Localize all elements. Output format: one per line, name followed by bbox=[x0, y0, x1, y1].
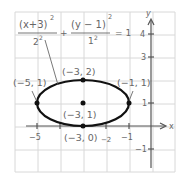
point-label: (−1, 1) bbox=[117, 77, 151, 88]
point-label: (−3, 1) bbox=[63, 109, 97, 120]
point-label: (−3, 0) bbox=[64, 132, 98, 143]
svg-text:2: 2 bbox=[108, 13, 112, 21]
svg-text:1: 1 bbox=[88, 36, 94, 46]
point-center bbox=[81, 101, 86, 106]
svg-text:(y − 1): (y − 1) bbox=[71, 19, 106, 30]
point-vertex-right bbox=[127, 101, 132, 106]
svg-text:2: 2 bbox=[39, 34, 43, 41]
ellipse-graph: x y −5 −2 −1 4 3 1 −1 (−5, 1) (−3, 2) (−… bbox=[0, 0, 181, 185]
point-label: (−3, 2) bbox=[62, 66, 96, 77]
svg-text:= 1: = 1 bbox=[115, 28, 131, 38]
y-tick-label: 3 bbox=[141, 53, 146, 62]
x-axis-label: x bbox=[169, 122, 174, 131]
svg-text:2: 2 bbox=[50, 14, 54, 22]
equation: (x+3) 2 2 2 + (y − 1) 2 1 2 = 1 bbox=[18, 13, 131, 47]
point-label: (−5, 1) bbox=[13, 77, 47, 88]
svg-text:2: 2 bbox=[94, 34, 98, 41]
svg-text:+: + bbox=[60, 28, 68, 38]
x-tick-label: −2 bbox=[101, 136, 111, 144]
svg-text:2: 2 bbox=[33, 37, 39, 47]
y-tick-label: −1 bbox=[135, 145, 147, 154]
y-tick-label: 4 bbox=[140, 30, 145, 39]
point-covertex-bottom bbox=[81, 124, 86, 129]
y-tick-label: 1 bbox=[142, 99, 147, 108]
svg-text:(x+3): (x+3) bbox=[19, 19, 48, 30]
point-vertex-left bbox=[35, 101, 40, 106]
x-tick-label: −5 bbox=[29, 133, 41, 142]
x-tick-label: −1 bbox=[121, 133, 133, 142]
y-axis-label: y bbox=[145, 9, 151, 18]
point-covertex-top bbox=[81, 78, 86, 83]
